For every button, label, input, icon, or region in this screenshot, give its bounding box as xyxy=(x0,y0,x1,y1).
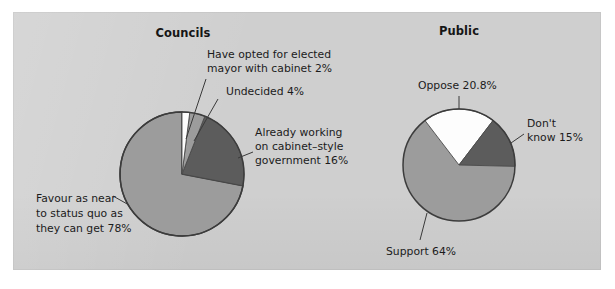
councils-label-elected-mayor: Have opted for elected mayor with cabine… xyxy=(207,48,332,75)
pie-charts-svg: Councils Have opted for elected mayor wi… xyxy=(0,0,615,289)
public-title: Public xyxy=(439,24,479,38)
svg-text:Oppose 20.8%: Oppose 20.8% xyxy=(418,79,497,92)
svg-text:Have opted for elected: Have opted for elected xyxy=(207,48,331,61)
svg-text:they can get 78%: they can get 78% xyxy=(36,222,132,235)
svg-text:to status quo as: to status quo as xyxy=(36,207,123,220)
svg-text:government 16%: government 16% xyxy=(255,154,348,167)
public-leader-support xyxy=(420,213,427,240)
public-label-support: Support 64% xyxy=(386,245,456,258)
svg-text:mayor with cabinet 2%: mayor with cabinet 2% xyxy=(207,62,332,75)
councils-label-already-working: Already working on cabinet–style governm… xyxy=(255,126,348,167)
public-leader-dont-know xyxy=(511,134,524,143)
councils-title: Councils xyxy=(155,26,210,40)
public-label-dont-know: Don't know 15% xyxy=(527,117,583,144)
svg-text:Already working: Already working xyxy=(255,126,342,139)
svg-text:Don't: Don't xyxy=(527,117,556,130)
councils-chart: Councils Have opted for elected mayor wi… xyxy=(36,26,348,236)
councils-label-undecided: Undecided 4% xyxy=(226,85,304,98)
public-label-oppose: Oppose 20.8% xyxy=(418,79,497,92)
svg-text:Undecided 4%: Undecided 4% xyxy=(226,85,304,98)
svg-text:Support 64%: Support 64% xyxy=(386,245,456,258)
svg-text:Favour as near: Favour as near xyxy=(36,192,116,205)
svg-text:know 15%: know 15% xyxy=(527,131,583,144)
public-chart: Public Oppose 20.8% Don't know 15% xyxy=(386,24,583,258)
figure-root: Councils Have opted for elected mayor wi… xyxy=(0,0,615,289)
svg-text:on cabinet–style: on cabinet–style xyxy=(255,140,344,153)
